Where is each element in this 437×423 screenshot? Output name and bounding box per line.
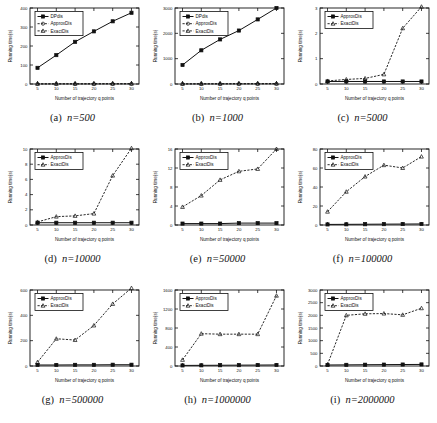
x-axis-tick-label: 15 [218,368,223,373]
data-point-marker [275,6,278,9]
data-point-marker [74,40,77,43]
x-axis-tick-label: 20 [237,368,242,373]
legend-label[interactable]: ExactDis [341,21,360,26]
panel-caption-tag: (c) [337,112,349,123]
legend-label[interactable]: ExactDis [196,29,215,34]
panel-plot: 010002000300051015202530Number of trajec… [145,0,290,114]
legend-label[interactable]: ApproxDis [51,296,73,301]
x-axis-tick-label: 15 [363,368,368,373]
x-axis-tick-label: 15 [363,86,368,91]
data-point-marker [181,364,184,367]
y-axis-tick-label: 1600 [163,288,173,293]
legend-label[interactable]: ExactDis [51,303,70,308]
legend-label[interactable]: ApproxDis [196,155,218,160]
y-axis-tick-label: 0 [25,223,28,228]
legend-label[interactable]: ApproxDis [51,21,73,26]
data-point-marker [331,15,334,18]
x-axis-tick-label: 15 [73,227,78,232]
y-axis-tick-label: 0 [315,82,318,87]
data-point-marker [130,286,134,290]
panel-plot: 02040608051015202530Number of trajectory… [290,141,435,255]
legend-label[interactable]: ExactDis [51,29,70,34]
data-point-marker [256,222,259,225]
legend-label[interactable]: DPdis [196,14,209,19]
x-axis-tick-label: 10 [199,86,204,91]
x-axis-tick-label: 5 [36,227,39,232]
panel-caption-tag: (d) [44,253,56,264]
x-axis-tick-label: 25 [400,368,405,373]
x-axis-tick-label: 25 [255,368,260,373]
y-axis-tick-label: 400 [20,313,28,318]
panel-caption-n: n=500 [67,112,95,123]
data-point-marker [420,222,423,225]
legend-label[interactable]: ApproxDis [341,296,363,301]
data-point-marker [186,156,189,159]
panel-plot: 020040060051015202530Number of trajector… [0,282,145,396]
data-point-marker [186,15,189,18]
legend-label[interactable]: ApproxDis [341,14,363,19]
y-axis-tick-label: 400 [165,345,173,350]
panel-caption-n: n=100000 [348,253,392,264]
plot-area: 010020030040051015202530Number of trajec… [0,0,145,114]
y-axis-tick-label: 4 [25,192,28,197]
y-axis-tick-label: 6 [25,177,28,182]
data-point-marker [420,155,424,159]
x-axis-tick-label: 5 [181,227,184,232]
x-axis-tick-label: 5 [326,368,329,373]
data-point-marker [237,222,240,225]
chart-panel-f: 02040608051015202530Number of trajectory… [290,141,435,282]
chart-panel-b: 010002000300051015202530Number of trajec… [145,0,290,141]
y-axis-label: Running time(s) [153,311,158,344]
data-point-marker [420,306,424,310]
y-axis-label: Running time(s) [8,170,13,203]
data-point-marker [382,80,385,83]
y-axis-tick-label: 12 [168,166,173,171]
y-axis-tick-label: 60 [313,166,318,171]
x-axis-tick-label: 5 [326,86,329,91]
legend-label[interactable]: ExactDis [341,162,360,167]
data-point-marker [364,363,367,366]
y-axis-tick-label: 8 [170,185,173,190]
legend-label[interactable]: DPdis [51,14,64,19]
data-point-marker [200,49,203,52]
panel-caption-tag: (e) [190,253,202,264]
data-point-marker [130,363,133,366]
panel-caption-tag: (i) [330,394,340,405]
legend-label[interactable]: ExactDis [51,162,70,167]
y-axis-label: Running time(s) [153,170,158,203]
data-point-marker [401,166,405,170]
legend-label[interactable]: ApproxDis [51,155,73,160]
panel-plot: 010020030040051015202530Number of trajec… [0,0,145,114]
y-axis-tick-label: 2000 [163,31,173,36]
x-axis-tick-label: 20 [382,86,387,91]
data-point-marker [73,214,77,218]
data-point-marker [186,297,189,300]
x-axis-tick-label: 20 [382,227,387,232]
data-point-marker [41,297,44,300]
x-axis-tick-label: 30 [129,368,134,373]
data-point-marker [345,80,348,83]
data-point-marker [382,363,385,366]
legend-label[interactable]: ExactDis [196,303,215,308]
data-point-marker [200,222,203,225]
x-axis-tick-label: 10 [54,227,59,232]
y-axis-tick-label: 16 [168,147,173,152]
panel-caption-tag: (b) [192,112,204,123]
x-axis-tick-label: 20 [92,86,97,91]
x-axis-tick-label: 30 [129,227,134,232]
legend-label[interactable]: ApproxDis [196,296,218,301]
legend-label[interactable]: ExactDis [341,303,360,308]
data-point-marker [181,63,184,66]
legend-label[interactable]: ExactDis [196,162,215,167]
legend-label[interactable]: ApproxDis [341,155,363,160]
data-point-marker [219,222,222,225]
data-point-marker [55,221,58,224]
series-line-exactdis [328,308,422,364]
x-axis-tick-label: 25 [110,368,115,373]
data-point-marker [218,178,222,182]
data-point-marker [345,363,348,366]
chart-panel-g: 020040060051015202530Number of trajector… [0,282,145,423]
x-axis-tick-label: 10 [54,86,59,91]
legend-label[interactable]: ApproxDis [196,21,218,26]
y-axis-tick-label: 100 [20,63,28,68]
